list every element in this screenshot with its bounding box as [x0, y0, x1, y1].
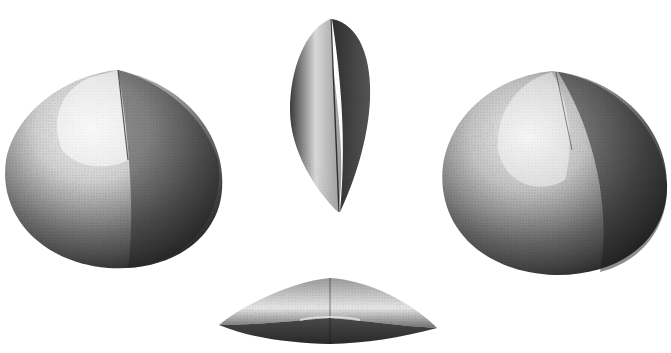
- left-valve-view: [5, 70, 222, 268]
- right-valve-view: [442, 71, 667, 275]
- side-profile-view: [290, 19, 370, 212]
- ventral-edge-view: [219, 278, 437, 344]
- shell-illustration-plate: Bivalve shell engraving, four views: [0, 0, 671, 353]
